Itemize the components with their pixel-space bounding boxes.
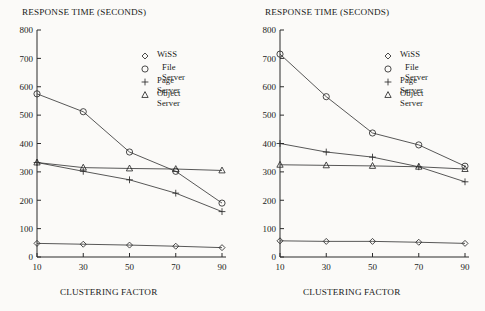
y-tick-label: 100 (20, 224, 34, 234)
chart-panel-right: RESPONSE TIME (SECONDS) 0100200300400500… (243, 0, 485, 311)
diamond-marker (138, 50, 152, 62)
series-line-object-server (37, 163, 222, 171)
diamond-marker (381, 50, 395, 62)
legend-label: Object Server (400, 88, 424, 108)
y-tick-label: 300 (263, 167, 277, 177)
triangle-marker (369, 163, 375, 169)
series-line-file-server (280, 54, 465, 166)
plus-marker (385, 79, 392, 86)
triangle-marker (138, 89, 152, 101)
y-tick-label: 600 (263, 82, 277, 92)
triangle-marker (323, 162, 329, 168)
plus-marker (219, 208, 226, 215)
x-tick-label: 70 (171, 262, 181, 272)
y-tick-label: 800 (263, 25, 277, 35)
y-tick-label: 800 (20, 25, 34, 35)
series-line-file-server (37, 94, 222, 203)
x-tick-label: 70 (414, 262, 424, 272)
x-tick-label: 10 (33, 262, 43, 272)
triangle-marker (142, 92, 148, 98)
plus-marker (172, 190, 179, 197)
y-tick-label: 500 (20, 110, 34, 120)
plus-marker (381, 76, 395, 88)
plot-area-right: 01002003004005006007008001030507090 (243, 0, 485, 311)
x-tick-label: 10 (276, 262, 286, 272)
plus-marker (126, 176, 133, 183)
legend-label: Object Server (157, 88, 181, 108)
y-tick-label: 100 (263, 224, 277, 234)
y-tick-label: 400 (20, 139, 34, 149)
diamond-marker (385, 53, 391, 59)
plus-marker (138, 76, 152, 88)
x-tick-label: 30 (79, 262, 89, 272)
plus-marker (142, 79, 149, 86)
circle-marker (138, 63, 152, 75)
x-axis-title-left: CLUSTERING FACTOR (60, 287, 157, 297)
x-tick-label: 30 (322, 262, 332, 272)
plus-marker (462, 178, 469, 185)
y-tick-label: 400 (263, 139, 277, 149)
legend-label: WiSS (400, 49, 420, 59)
x-axis-title-right: CLUSTERING FACTOR (303, 287, 400, 297)
circle-marker (385, 66, 391, 72)
y-tick-label: 0 (272, 252, 277, 262)
y-tick-label: 300 (20, 167, 34, 177)
x-tick-label: 90 (218, 262, 228, 272)
legend-label: WiSS (157, 49, 177, 59)
figure-canvas: RESPONSE TIME (SECONDS) 0100200300400500… (0, 0, 485, 311)
y-tick-label: 700 (263, 54, 277, 64)
plot-area-left: 01002003004005006007008001030507090 (0, 0, 242, 311)
y-tick-label: 500 (263, 110, 277, 120)
y-tick-label: 200 (263, 196, 277, 206)
y-tick-label: 700 (20, 54, 34, 64)
chart-panel-left: RESPONSE TIME (SECONDS) 0100200300400500… (0, 0, 242, 311)
triangle-marker (381, 89, 395, 101)
series-line-wiss (37, 243, 222, 247)
plus-marker (277, 140, 284, 147)
triangle-marker (126, 165, 132, 171)
diamond-marker (142, 53, 148, 59)
y-tick-label: 600 (20, 82, 34, 92)
plus-marker (369, 154, 376, 161)
y-tick-label: 200 (20, 196, 34, 206)
y-tick-label: 0 (29, 252, 34, 262)
plus-marker (323, 149, 330, 156)
series-line-wiss (280, 241, 465, 244)
circle-marker (142, 66, 148, 72)
circle-marker (381, 63, 395, 75)
x-tick-label: 50 (125, 262, 135, 272)
x-tick-label: 90 (461, 262, 471, 272)
triangle-marker (385, 92, 391, 98)
x-tick-label: 50 (368, 262, 378, 272)
